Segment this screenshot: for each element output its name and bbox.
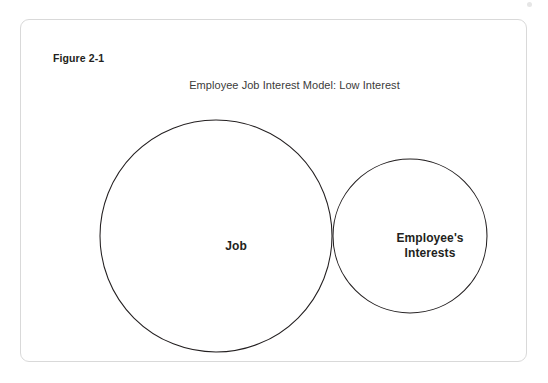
venn-label-employees-interests-line-1: Employee's: [396, 231, 463, 245]
venn-label-employees-interests: Employee's Interests: [375, 231, 485, 260]
venn-diagram: Job Employee's Interests: [41, 39, 548, 382]
venn-label-job-line-1: Job: [225, 239, 247, 253]
venn-circle-job: [100, 120, 332, 352]
scan-speck: [527, 2, 532, 7]
venn-label-employees-interests-line-2: Interests: [405, 246, 456, 260]
venn-label-job: Job: [186, 239, 286, 254]
venn-diagram-svg: [41, 39, 548, 382]
figure-page: Figure 2-1 Employee Job Interest Model: …: [0, 0, 548, 383]
figure-card: Figure 2-1 Employee Job Interest Model: …: [20, 19, 527, 362]
